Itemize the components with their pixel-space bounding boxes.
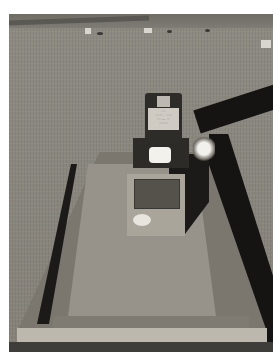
inscription-text: ····· ········ · ······ ···· — ···· ····… bbox=[148, 109, 179, 125]
foreground-weeds bbox=[9, 342, 273, 352]
grave-plaque bbox=[134, 179, 180, 209]
white-dish bbox=[133, 214, 151, 226]
flower-bouquet bbox=[193, 137, 215, 163]
distant-object bbox=[205, 29, 210, 32]
distant-grave-marker bbox=[85, 28, 91, 34]
front-curb-top bbox=[53, 316, 249, 328]
inscription-line: ·········· bbox=[148, 121, 179, 125]
headstone-emblem bbox=[157, 96, 170, 107]
distant-grave-marker bbox=[144, 28, 152, 33]
grave-photo: ····· ········ · ······ ···· — ···· ····… bbox=[9, 14, 273, 352]
distant-object bbox=[167, 30, 172, 33]
distant-object bbox=[97, 32, 103, 35]
distant-grave-marker bbox=[261, 40, 271, 48]
white-vase bbox=[149, 147, 171, 163]
